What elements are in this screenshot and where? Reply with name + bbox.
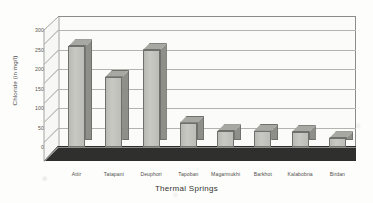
bar-front-face	[329, 138, 346, 147]
bar-front-face	[217, 131, 234, 147]
y-tick-label: 50	[22, 125, 44, 131]
x-tick-label: Barkhot	[254, 171, 272, 177]
gridline	[58, 147, 356, 148]
x-tick-label: Tatapani	[104, 171, 124, 177]
chart-floor	[44, 146, 356, 161]
x-tick-label: Kalabobna	[287, 171, 312, 177]
gridline	[58, 50, 356, 51]
bar-side-face	[85, 39, 92, 140]
plot-area	[44, 16, 356, 161]
bar	[180, 116, 204, 147]
bar	[292, 125, 316, 147]
bar	[217, 124, 241, 147]
bar-front-face	[68, 46, 85, 147]
bar-front-face	[105, 77, 122, 147]
chart-container: Chloride (in mg/l) 050100150200250300 At…	[0, 0, 373, 203]
bar	[143, 43, 167, 147]
x-tick-label: Deuphori	[140, 171, 161, 177]
y-tick-label: 200	[22, 66, 44, 72]
bar-front-face	[180, 123, 197, 147]
gridline	[58, 89, 356, 90]
bar-front-face	[143, 50, 160, 147]
x-tick-label: Birdan	[330, 171, 345, 177]
gridline	[58, 69, 356, 70]
x-tick-label: Tapoban	[178, 171, 198, 177]
gridline	[58, 30, 356, 31]
y-tick-label: 250	[22, 47, 44, 53]
bar	[68, 39, 92, 147]
gridline	[58, 108, 356, 109]
x-tick-label: Magarmukhi	[211, 171, 240, 177]
bar	[105, 70, 129, 147]
bar-front-face	[292, 132, 309, 147]
bar-front-face	[254, 131, 271, 147]
y-tick-label: 0	[22, 144, 44, 150]
y-axis-tick-labels: 050100150200250300	[0, 0, 44, 203]
bar-side-face	[122, 70, 129, 140]
y-tick-label: 300	[22, 27, 44, 33]
bar	[254, 124, 278, 147]
bar-side-face	[160, 43, 167, 140]
x-tick-label: Attir	[72, 171, 82, 177]
y-tick-label: 100	[22, 105, 44, 111]
x-axis-title: Thermal Springs	[0, 184, 373, 193]
bar	[329, 131, 353, 147]
y-tick-label: 150	[22, 86, 44, 92]
